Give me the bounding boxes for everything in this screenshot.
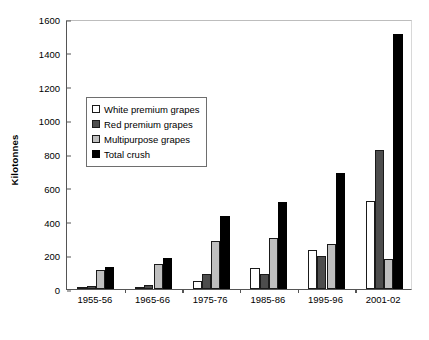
bar (393, 34, 402, 289)
y-tick-label: 200 (44, 250, 60, 263)
y-tick-mark (67, 223, 71, 224)
x-tick-mark (182, 289, 183, 293)
bar (154, 264, 163, 289)
legend-item: Red premium grapes (92, 117, 200, 131)
bar (135, 287, 144, 289)
y-tick-label: 600 (44, 182, 60, 195)
x-tick-mark (355, 289, 356, 293)
bar (366, 201, 375, 289)
y-tick-mark (67, 20, 71, 21)
legend-item: Multipurpose grapes (92, 132, 200, 146)
grape-crush-bar-chart: Kilotonnes 02004006008001000120014001600… (0, 0, 429, 340)
bar (96, 270, 105, 289)
bar (269, 238, 278, 289)
x-axis-label: 1975-76 (181, 294, 239, 305)
bar (375, 150, 384, 289)
bar (193, 281, 202, 289)
legend-item-label: White premium grapes (104, 104, 200, 115)
y-axis-title: Kilotonnes (9, 110, 25, 210)
y-tick-label: 400 (44, 216, 60, 229)
legend-item-label: Total crush (104, 149, 150, 160)
bar (163, 258, 172, 289)
x-tick-mark (240, 289, 241, 293)
y-tick-label: 800 (44, 149, 60, 162)
bar (211, 241, 220, 289)
white-outlined-square-icon (92, 105, 100, 113)
bar (260, 274, 269, 289)
bar (144, 285, 153, 289)
y-tick-mark (67, 121, 71, 122)
y-tick-label: 1600 (39, 14, 60, 27)
y-tick-label: 1000 (39, 115, 60, 128)
y-tick-label: 1400 (39, 47, 60, 60)
bar (87, 286, 96, 289)
x-tick-mark (125, 289, 126, 293)
y-tick-label: 0 (55, 284, 60, 297)
bar (308, 250, 317, 289)
dark-gray-square-icon (92, 120, 100, 128)
y-tick-mark (67, 256, 71, 257)
black-square-icon (92, 150, 100, 158)
bar (317, 256, 326, 289)
x-axis-label: 1995-96 (297, 294, 355, 305)
bar (202, 274, 211, 289)
bar (105, 267, 114, 289)
x-axis-label: 1955-56 (66, 294, 124, 305)
y-tick-mark (67, 54, 71, 55)
y-tick-mark (67, 189, 71, 190)
light-gray-square-icon (92, 135, 100, 143)
legend-item-label: Red premium grapes (104, 119, 193, 130)
x-axis-label: 1985-86 (239, 294, 297, 305)
x-axis-label: 2001-02 (354, 294, 412, 305)
x-tick-mark (298, 289, 299, 293)
y-tick-mark (67, 155, 71, 156)
legend-item: Total crush (92, 147, 200, 161)
bar (220, 216, 229, 289)
bar (278, 202, 287, 289)
bar (384, 259, 393, 289)
y-tick-mark (67, 88, 71, 89)
plot-area: 02004006008001000120014001600 White prem… (66, 20, 412, 290)
legend-item-label: Multipurpose grapes (104, 134, 190, 145)
x-axis-label: 1965-66 (124, 294, 182, 305)
y-tick-label: 1200 (39, 81, 60, 94)
bar (250, 268, 259, 289)
legend-item: White premium grapes (92, 102, 200, 116)
chart-legend: White premium grapesRed premium grapesMu… (86, 97, 207, 167)
bar (336, 173, 345, 289)
bar (327, 244, 336, 289)
bar (77, 287, 86, 289)
y-tick-mark (67, 290, 71, 291)
